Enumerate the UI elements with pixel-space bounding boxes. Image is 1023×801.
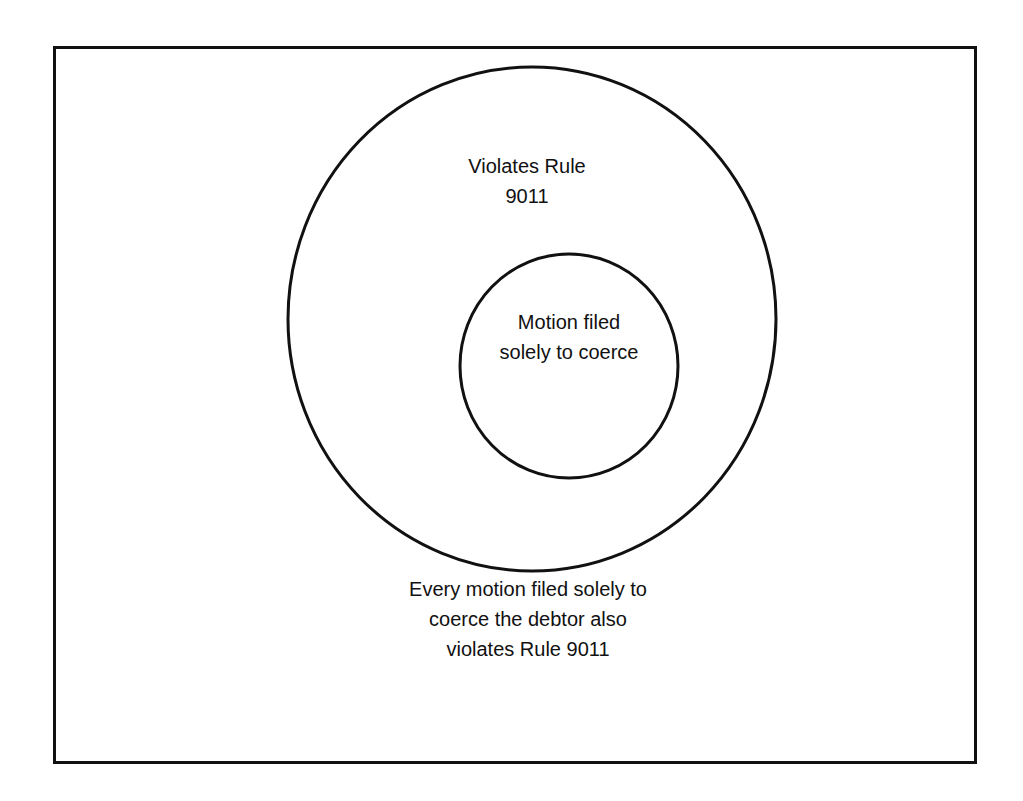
outer-set-label-line-1: Violates Rule: [468, 151, 585, 181]
diagram-caption: Every motion filed solely to coerce the …: [409, 574, 647, 664]
caption-line-3: violates Rule 9011: [409, 634, 647, 664]
venn-circles: [0, 0, 1023, 801]
caption-line-1: Every motion filed solely to: [409, 574, 647, 604]
inner-set-label-line-1: Motion filed: [500, 307, 639, 337]
caption-line-2: coerce the debtor also: [409, 604, 647, 634]
inner-set-label-line-2: solely to coerce: [500, 337, 639, 367]
outer-set-label: Violates Rule 9011: [468, 151, 585, 211]
inner-set-label: Motion filed solely to coerce: [500, 307, 639, 367]
outer-set-label-line-2: 9011: [468, 181, 585, 211]
